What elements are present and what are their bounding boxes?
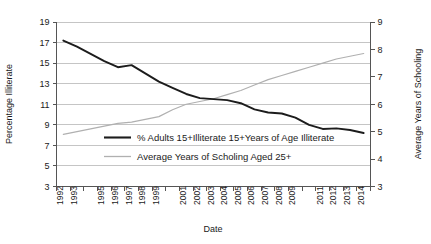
- x-axis-tick-label: 1996: [110, 186, 120, 205]
- x-axis-ticks: 1992199319951996199719981999200120022003…: [55, 186, 370, 205]
- x-axis-tick-label: 1995: [96, 186, 106, 205]
- legend-item-label-illiteracy: % Adults 15+Illiterate 15+Years of Age I…: [137, 132, 334, 143]
- x-axis-tick-label: 1997: [124, 186, 134, 205]
- left-axis-tick-label: 17: [39, 38, 49, 48]
- right-axis-tick-label: 8: [378, 45, 383, 55]
- x-axis-tick-label: 2005: [233, 186, 243, 205]
- x-axis-tick-label: 1992: [55, 186, 65, 205]
- x-axis-tick-label: 2001: [178, 186, 188, 205]
- right-axis-ticks: 3456789: [371, 17, 383, 192]
- series-line-illiteracy: [63, 41, 363, 134]
- legend: % Adults 15+Illiterate 15+Years of Age I…: [104, 132, 334, 162]
- left-axis-tick-label: 5: [44, 161, 49, 171]
- x-axis-tick-label: 2006: [246, 186, 256, 205]
- left-axis-tick-label: 15: [39, 58, 49, 68]
- right-axis-tick-label: 4: [378, 154, 383, 164]
- x-axis-tick-label: 2007: [260, 186, 270, 205]
- right-axis-tick-label: 3: [378, 182, 383, 192]
- x-axis-tick-label: 2013: [342, 186, 352, 205]
- y2-axis-title: Average Years of Schooling: [413, 49, 423, 159]
- series-line-schooling: [63, 54, 363, 135]
- line-chart: 35791113151719 3456789 19921993199519961…: [0, 0, 431, 244]
- x-axis-tick-label: 1998: [137, 186, 147, 205]
- x-axis-tick-label: 2008: [274, 186, 284, 205]
- left-axis-tick-label: 11: [40, 100, 49, 110]
- left-axis-tick-label: 9: [44, 120, 49, 130]
- x-axis-tick-label: 2003: [206, 186, 216, 205]
- x-axis-tick-label: 1993: [69, 186, 79, 205]
- x-axis-tick-label: 2004: [219, 186, 229, 205]
- chart-container: 35791113151719 3456789 19921993199519961…: [0, 0, 431, 244]
- x-axis-tick-label: 1999: [151, 186, 161, 205]
- left-axis-ticks: 35791113151719: [39, 17, 56, 192]
- right-axis-tick-label: 9: [378, 17, 383, 27]
- x-axis-tick-label: 2002: [192, 186, 202, 205]
- left-axis-tick-label: 19: [39, 17, 49, 27]
- y-axis-title: Percentage Illiterate: [4, 64, 14, 144]
- right-axis-tick-label: 7: [378, 72, 383, 82]
- left-axis-tick-label: 3: [44, 182, 49, 192]
- right-axis-tick-label: 6: [378, 100, 383, 110]
- right-axis-tick-label: 5: [378, 127, 383, 137]
- x-axis-tick-label: 2011: [315, 186, 325, 205]
- left-axis-tick-label: 7: [44, 141, 49, 151]
- x-axis-tick-label: 2009: [287, 186, 297, 205]
- left-axis-tick-label: 13: [39, 79, 49, 89]
- x-axis-title: Date: [203, 224, 222, 234]
- legend-item-label-schooling: Average Years of Scholing Aged 25+: [137, 151, 292, 162]
- x-axis-tick-label: 2012: [328, 186, 338, 205]
- x-axis-tick-label: 2014: [356, 186, 366, 205]
